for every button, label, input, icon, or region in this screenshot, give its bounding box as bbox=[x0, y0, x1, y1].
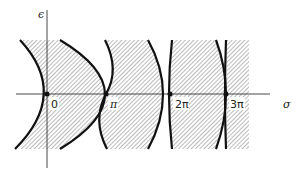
tick-label-2pi: 2π bbox=[175, 98, 189, 111]
tick-label-pi: π bbox=[109, 98, 118, 111]
x-axis-label: σ bbox=[283, 98, 291, 111]
hatched-regions bbox=[18, 40, 249, 149]
stability-diagram: 0 π 2π 3π σ ϵ bbox=[0, 0, 305, 178]
tick-label-3pi: 3π bbox=[230, 98, 244, 111]
y-axis-label: ϵ bbox=[38, 8, 44, 21]
tick-label-0: 0 bbox=[51, 98, 58, 111]
